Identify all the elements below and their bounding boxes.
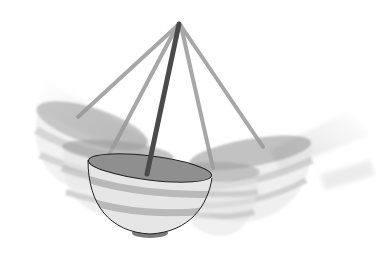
- swinging-bowl-illustration: [0, 0, 384, 256]
